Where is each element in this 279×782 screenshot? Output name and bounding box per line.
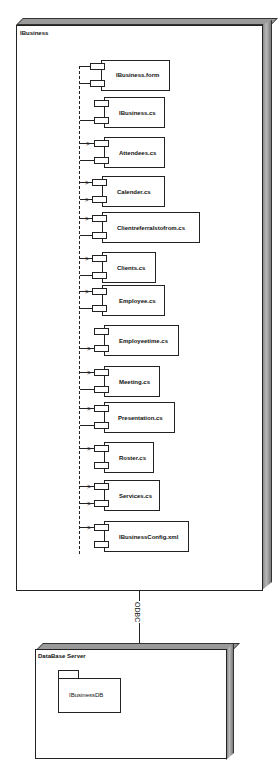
component-label: Calender.cs: [117, 189, 151, 195]
database-node-side-face: [226, 643, 234, 760]
component-label: IBusinessConfig.xml: [119, 534, 178, 540]
package-label: IBusinessDB: [69, 692, 103, 698]
component-label: Roster.cs: [119, 455, 146, 461]
component-label: Clients.cs: [117, 265, 145, 271]
ibusiness-node-side-face: [262, 20, 272, 590]
component-label: Employee.cs: [119, 298, 156, 304]
connection-label: ODBC: [134, 601, 141, 623]
component-label: IBusiness.cs: [119, 110, 156, 116]
ibusiness-node-title: IBusiness: [20, 30, 48, 36]
database-node-title: DataBase Server: [38, 653, 86, 659]
component-label: Attendees.cs: [119, 150, 156, 156]
component-label: Services.cs: [119, 493, 152, 499]
ibusiness-node-top-face: [16, 18, 278, 25]
component-label: Employeetime.cs: [119, 338, 168, 344]
component-label: Meeting.cs: [119, 379, 150, 385]
component-label: Clientreferralstofrom.cs: [117, 225, 185, 231]
component-label: Presentation.cs: [118, 415, 163, 421]
dependency-line: [79, 66, 80, 554]
component-label: IBusiness.form: [116, 72, 159, 78]
